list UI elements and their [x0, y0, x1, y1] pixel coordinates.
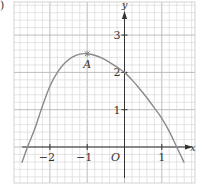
- x-tick-label: −2: [39, 151, 55, 164]
- y-axis-label: y: [121, 0, 128, 10]
- x-tick-label: −1: [76, 151, 92, 164]
- x-tick-label: 1: [158, 151, 165, 164]
- x-axis-label: x: [190, 142, 196, 153]
- y-tick-label: 3: [114, 29, 121, 42]
- y-axis-arrow-icon: [122, 11, 127, 19]
- y-tick-label: 1: [114, 104, 121, 117]
- origin-label: O: [111, 151, 120, 164]
- graph: −2−11123OxyA: [0, 0, 198, 186]
- figure-fragment: ): [0, 0, 4, 11]
- point-label-a: A: [82, 58, 91, 71]
- curve: [22, 54, 184, 163]
